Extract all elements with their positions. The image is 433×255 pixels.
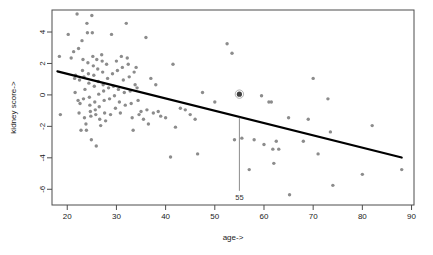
x-tick-label: 50 (210, 212, 219, 221)
data-point (136, 99, 139, 102)
data-point (102, 89, 105, 92)
chart-canvas: 420-2-4-6 2030405060708090 55 age-> kidn… (0, 0, 433, 255)
data-point (111, 72, 114, 75)
data-point (189, 113, 192, 116)
data-point (171, 63, 174, 66)
data-point (144, 36, 147, 39)
data-point (287, 116, 290, 119)
data-point (95, 144, 98, 147)
data-point (72, 50, 75, 53)
data-point (270, 100, 273, 103)
data-point (213, 100, 216, 103)
data-point (131, 129, 134, 132)
data-point (77, 47, 80, 50)
data-point (108, 97, 111, 100)
x-tick-label: 20 (63, 212, 72, 221)
data-point (123, 91, 126, 94)
data-point (272, 162, 275, 165)
data-point (59, 113, 62, 116)
data-point (69, 56, 72, 59)
data-point (331, 184, 334, 187)
data-point (137, 113, 140, 116)
data-point (193, 118, 196, 121)
data-point (80, 39, 83, 42)
data-point (94, 113, 97, 116)
y-tick-label: 4 (39, 29, 48, 34)
x-tick-label: 30 (112, 212, 121, 221)
y-tick-label: -4 (39, 154, 48, 162)
data-point (275, 140, 278, 143)
data-point (85, 22, 88, 25)
data-point (91, 31, 94, 34)
data-points (58, 12, 404, 196)
data-point (196, 152, 199, 155)
data-point (277, 147, 280, 150)
y-tick-label: -6 (39, 185, 48, 193)
data-point (89, 110, 92, 113)
data-point (302, 140, 305, 143)
data-point (86, 31, 89, 34)
highlighted-point (237, 92, 242, 97)
data-point (132, 70, 135, 73)
data-point (99, 124, 102, 127)
data-point (307, 118, 310, 121)
data-point (79, 129, 82, 132)
data-point (114, 107, 117, 110)
data-point (101, 70, 104, 73)
y-tick-label: 2 (39, 61, 48, 66)
data-point (88, 103, 91, 106)
data-point (109, 113, 112, 116)
data-point (77, 111, 80, 114)
data-point (164, 116, 167, 119)
data-point (147, 122, 150, 125)
data-point (122, 78, 125, 81)
data-point (113, 94, 116, 97)
x-tick-label: 40 (161, 212, 170, 221)
data-point (174, 125, 177, 128)
data-point (106, 77, 109, 80)
data-point (288, 193, 291, 196)
data-point (233, 138, 236, 141)
data-point (361, 173, 364, 176)
data-point (121, 66, 124, 69)
data-point (117, 88, 120, 91)
data-point (230, 52, 233, 55)
data-point (83, 88, 86, 91)
data-point (271, 147, 274, 150)
data-point (316, 152, 319, 155)
data-point (201, 91, 204, 94)
data-point (93, 100, 96, 103)
plot-border (52, 10, 414, 205)
data-point (82, 97, 85, 100)
data-point (76, 99, 79, 102)
data-point (104, 119, 107, 122)
data-point (157, 110, 160, 113)
data-point (91, 55, 94, 58)
y-axis: 420-2-4-6 (39, 29, 53, 193)
data-point (252, 138, 255, 141)
data-point (145, 108, 148, 111)
data-point (260, 94, 263, 97)
x-tick-label: 80 (358, 212, 367, 221)
data-point (184, 108, 187, 111)
data-point (73, 77, 76, 80)
data-point (179, 107, 182, 110)
data-point (169, 155, 172, 158)
data-point (154, 83, 157, 86)
data-point (58, 55, 61, 58)
data-point (89, 114, 92, 117)
annotation-marker: 55 (235, 90, 243, 202)
x-axis: 2030405060708090 (63, 205, 417, 221)
plot-frame (52, 10, 414, 205)
data-point (248, 168, 251, 171)
data-point (83, 116, 86, 119)
data-point (93, 85, 96, 88)
data-point (100, 53, 103, 56)
y-tick-label: -2 (39, 122, 48, 130)
data-point (139, 110, 142, 113)
data-point (120, 55, 123, 58)
y-axis-title: kidney score-> (9, 81, 18, 134)
data-point (125, 22, 128, 25)
data-point (225, 42, 228, 45)
data-point (135, 86, 138, 89)
